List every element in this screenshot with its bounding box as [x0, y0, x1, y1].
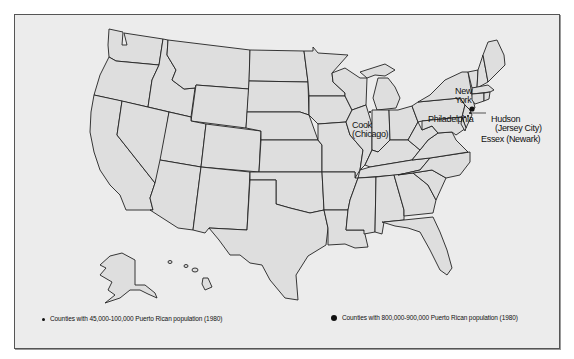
state-alaska	[100, 253, 157, 303]
label-hudson: Hudson (Jersey City)	[491, 115, 542, 133]
legend-large: Counties with 800,000-900,000 Puerto Ric…	[331, 314, 518, 321]
state-south-dakota	[247, 81, 309, 115]
label-hudson-line2: (Jersey City)	[495, 124, 542, 133]
label-cook-line2: (Chicago)	[352, 130, 388, 139]
state-washington	[108, 29, 163, 65]
state-new-mexico	[193, 167, 250, 233]
state-north-dakota	[249, 50, 308, 82]
state-rhode-island	[484, 92, 490, 101]
state-kansas	[259, 140, 322, 172]
label-cook: Cook (Chicago)	[352, 121, 388, 139]
state-iowa	[309, 96, 352, 124]
label-new-york-line2: York	[455, 96, 472, 105]
state-hawaii-big-island	[202, 278, 212, 290]
state-connecticut	[472, 93, 484, 104]
state-hawaii-kauai	[168, 261, 172, 264]
large-dot-icon	[331, 315, 337, 321]
label-new-york: New York	[455, 87, 472, 105]
legend-small-text: Counties with 45,000-100,000 Puerto Rica…	[50, 315, 222, 322]
marker-cook	[369, 111, 371, 113]
state-hawaii-oahu	[184, 265, 188, 268]
state-hawaii-maui	[192, 268, 198, 272]
state-wyoming	[191, 85, 249, 128]
label-essex: Essex (Newark)	[481, 135, 540, 144]
marker-new-york	[469, 106, 474, 111]
legend-small: Counties with 45,000-100,000 Puerto Rica…	[42, 315, 222, 322]
state-arizona	[150, 160, 201, 230]
legend-large-text: Counties with 800,000-900,000 Puerto Ric…	[342, 314, 518, 321]
state-florida	[382, 217, 452, 275]
state-montana	[167, 40, 250, 89]
small-dot-icon	[42, 318, 45, 321]
us-map	[0, 0, 574, 359]
state-colorado	[201, 124, 261, 172]
label-philadelphia: Philadelphia	[428, 115, 473, 124]
